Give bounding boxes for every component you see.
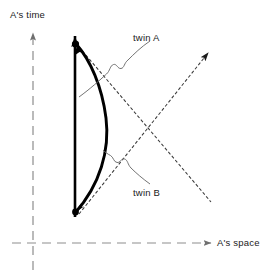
time-axis-label: A's time [10,10,45,20]
space-axis-label: A's space [217,238,260,248]
twin-b-label: twin B [133,188,160,198]
light-ray-backward [79,47,211,202]
twin-a-label: twin A [133,33,160,43]
axis-group [12,33,211,270]
twin-b-worldline [75,45,107,213]
worldline-group [71,36,107,217]
spacetime-diagram: A's time A's space twin A twin B [0,0,269,272]
reunion-event-dot [72,40,79,47]
